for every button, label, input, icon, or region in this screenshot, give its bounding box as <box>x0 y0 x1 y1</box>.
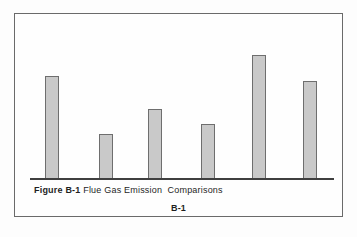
bar-3 <box>148 109 162 179</box>
bar-chart <box>30 14 334 179</box>
bar-6 <box>303 81 317 179</box>
figure-box: Figure B-1 Flue Gas Emission Comparisons… <box>14 13 343 217</box>
bar-4 <box>201 124 215 179</box>
bar-group <box>30 14 334 179</box>
bar-1 <box>45 76 59 179</box>
figure-caption: Figure B-1 Flue Gas Emission Comparisons <box>34 185 223 196</box>
figure-label: Figure B-1 <box>34 185 81 195</box>
x-axis-line <box>30 178 334 180</box>
bar-2 <box>99 134 113 179</box>
page-number: B-1 <box>15 203 342 213</box>
figure-title: Flue Gas Emission Comparisons <box>81 185 223 195</box>
bar-5 <box>252 55 266 179</box>
